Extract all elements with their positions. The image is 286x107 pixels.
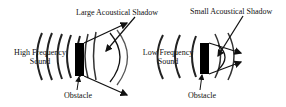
- left-shadow-label: Large Acoustical Shadow: [76, 8, 158, 17]
- right-obstacle-label: Obstacle: [188, 91, 216, 100]
- right-source-line2: Sound: [136, 57, 200, 66]
- right-shadow-label: Small Acoustical Shadow: [190, 7, 272, 16]
- right-shadow-region: [209, 43, 241, 74]
- left-wavefront-behind: [85, 32, 96, 80]
- right-source-line1: Low Frequency: [136, 48, 200, 57]
- left-source-label: High Frequency Sound: [8, 48, 72, 66]
- left-source-line1: High Frequency: [8, 48, 72, 57]
- left-obstacle-label: Obstacle: [64, 91, 92, 100]
- left-source-line2: Sound: [8, 57, 72, 66]
- left-obstacle-pointer: [77, 77, 79, 90]
- right-source-label: Low Frequency Sound: [136, 48, 200, 66]
- right-obstacle: [200, 43, 209, 74]
- right-obstacle-pointer: [200, 75, 202, 90]
- left-obstacle: [75, 43, 84, 76]
